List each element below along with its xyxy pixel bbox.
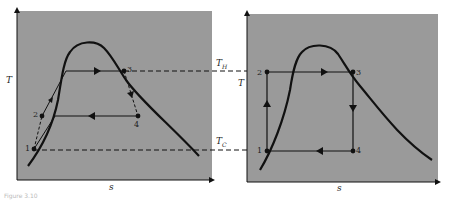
right-panel: T s 1 2 3 4 <box>238 13 438 193</box>
right-point-3 <box>351 70 356 75</box>
left-point-4-label: 4 <box>134 120 139 129</box>
left-point-1 <box>32 147 37 152</box>
right-panel-background <box>247 14 438 182</box>
left-y-axis-label: T <box>6 75 13 85</box>
right-point-4-label: 4 <box>356 146 361 155</box>
right-point-1 <box>265 149 270 154</box>
right-point-3-label: 3 <box>356 68 361 77</box>
ts-diagram-figure: T s 1 2 3 4 TH TC T s <box>0 0 449 202</box>
right-point-2 <box>265 70 270 75</box>
right-point-4 <box>351 149 356 154</box>
t-hot-label: TH <box>216 58 228 70</box>
t-cold-label: TC <box>216 136 227 148</box>
left-point-2 <box>40 114 45 119</box>
left-x-axis-label: s <box>109 182 114 192</box>
figure-caption: Figure 3.10 <box>4 192 38 200</box>
right-point-2-label: 2 <box>257 68 262 77</box>
right-x-axis-label: s <box>337 183 342 193</box>
left-point-1-label: 1 <box>25 144 30 153</box>
right-point-1-label: 1 <box>257 146 262 155</box>
left-point-3-label: 3 <box>127 65 132 74</box>
left-point-2-label: 2 <box>33 110 38 119</box>
right-y-axis-label: T <box>238 78 245 88</box>
left-point-4 <box>136 114 141 119</box>
left-panel: T s 1 2 3 4 <box>6 10 212 192</box>
left-panel-background <box>17 11 212 180</box>
